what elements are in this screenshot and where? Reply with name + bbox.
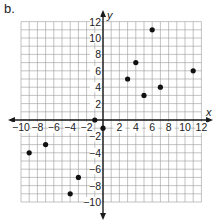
y-tick-label: −4 xyxy=(89,147,101,159)
y-tick-label: 4 xyxy=(95,81,101,93)
y-tick-label: −6 xyxy=(89,163,101,175)
x-tick-label: 6 xyxy=(149,121,155,133)
data-point xyxy=(141,93,146,98)
y-tick-label: −8 xyxy=(89,180,101,192)
x-tick-label: 2 xyxy=(116,121,122,133)
data-point xyxy=(150,27,155,32)
y-axis-down-arrow-icon xyxy=(100,213,106,220)
y-tick-label: 8 xyxy=(95,48,101,60)
x-tick-label: −10 xyxy=(12,121,30,133)
x-tick-label: 10 xyxy=(179,121,191,133)
y-tick-label: 12 xyxy=(89,16,101,28)
axes: xy xyxy=(8,9,213,220)
data-point xyxy=(100,126,105,131)
data-point xyxy=(76,175,81,180)
data-point xyxy=(125,76,130,81)
data-point xyxy=(191,68,196,73)
x-tick-label: 8 xyxy=(166,121,172,133)
coordinate-plane: xy −10−8−6−4−22468101212108642−2−4−6−8−1… xyxy=(0,0,217,224)
x-tick-label: −6 xyxy=(48,121,60,133)
y-tick-label: −2 xyxy=(89,130,101,142)
x-tick-label: 12 xyxy=(196,121,208,133)
data-point xyxy=(27,150,32,155)
data-point xyxy=(158,85,163,90)
x-tick-label: −4 xyxy=(64,121,76,133)
y-tick-label: −10 xyxy=(83,196,101,208)
y-tick-label: 2 xyxy=(95,98,101,110)
data-point xyxy=(43,142,48,147)
y-axis-label: y xyxy=(106,9,114,21)
x-axis-label: x xyxy=(205,106,212,118)
y-tick-label: 10 xyxy=(89,32,101,44)
data-point xyxy=(68,191,73,196)
data-point xyxy=(92,117,97,122)
x-tick-label: −8 xyxy=(31,121,43,133)
grid-lines xyxy=(21,22,201,202)
y-tick-label: 6 xyxy=(95,65,101,77)
x-tick-label: 4 xyxy=(133,121,139,133)
data-point xyxy=(133,60,138,65)
